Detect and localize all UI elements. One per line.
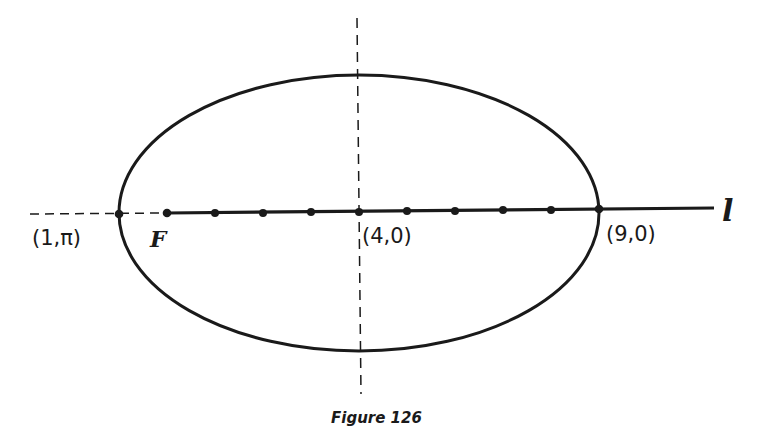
label-axis-l: l xyxy=(722,193,733,228)
axis-dashed-left xyxy=(30,213,167,214)
label-focus: F xyxy=(150,225,166,252)
label-right-vertex: (9,0) xyxy=(606,222,656,246)
figure-caption: Figure 126 xyxy=(331,409,422,427)
polar-axis-l xyxy=(167,208,714,213)
label-left-vertex: (1,π) xyxy=(32,226,81,250)
ellipse-diagram xyxy=(0,0,760,435)
label-center: (4,0) xyxy=(362,224,412,248)
